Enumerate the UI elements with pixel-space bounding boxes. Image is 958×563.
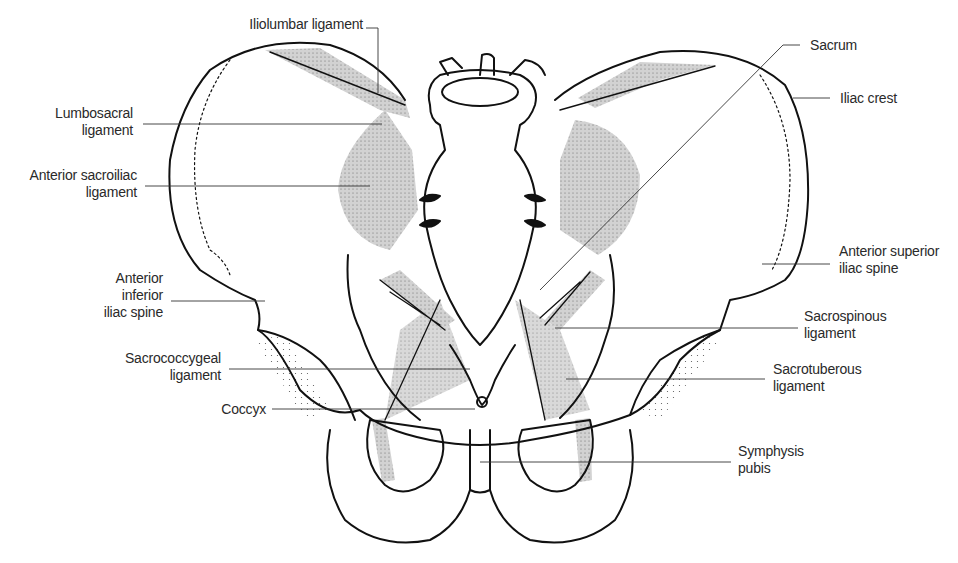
label-anterior-superior-iliac-spine: Anterior superior iliac spine	[839, 243, 939, 277]
label-anterior-sacroiliac-ligament: Anterior sacroiliac ligament	[0, 167, 137, 201]
label-iliac-crest: Iliac crest	[840, 90, 897, 107]
label-lumbosacral-ligament: Lumbosacral ligament	[20, 105, 133, 139]
label-coccyx: Coccyx	[180, 401, 266, 418]
bone-outlines	[169, 43, 808, 543]
label-sacrococcygeal-ligament: Sacrococcygeal ligament	[80, 350, 221, 384]
ligament-shading	[255, 48, 720, 482]
pelvis-ligament-diagram: Iliolumbar ligament Lumbosacral ligament…	[0, 0, 958, 563]
label-sacrospinous-ligament: Sacrospinous ligament	[804, 308, 886, 342]
label-symphysis-pubis: Symphysis pubis	[738, 443, 804, 477]
leader-lines	[143, 28, 830, 462]
label-sacrum: Sacrum	[810, 37, 857, 54]
label-iliolumbar-ligament: Iliolumbar ligament	[228, 16, 363, 33]
label-sacrotuberous-ligament: Sacrotuberous ligament	[773, 361, 861, 395]
label-anterior-inferior-iliac-spine: Anterior inferior iliac spine	[60, 270, 163, 321]
